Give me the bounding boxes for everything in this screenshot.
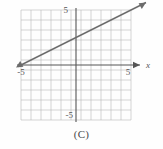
x-axis-arrow-icon: [133, 62, 140, 68]
x-axis-tick-label-positive: 5: [126, 67, 131, 77]
coordinate-graph: 5 -5 -5 5 x: [0, 0, 163, 126]
figure-screenshot: 5 -5 -5 5 x (C): [0, 0, 163, 149]
plotted-line: [18, 3, 146, 67]
y-axis-tick-label-positive: 5: [64, 5, 69, 15]
figure-caption: (C): [0, 128, 163, 140]
x-axis-variable-label: x: [145, 60, 150, 70]
x-axis-tick-label-negative: -5: [17, 67, 25, 77]
graph-svg: 5 -5 -5 5 x: [0, 0, 163, 126]
y-axis-tick-label-negative: -5: [66, 110, 74, 120]
